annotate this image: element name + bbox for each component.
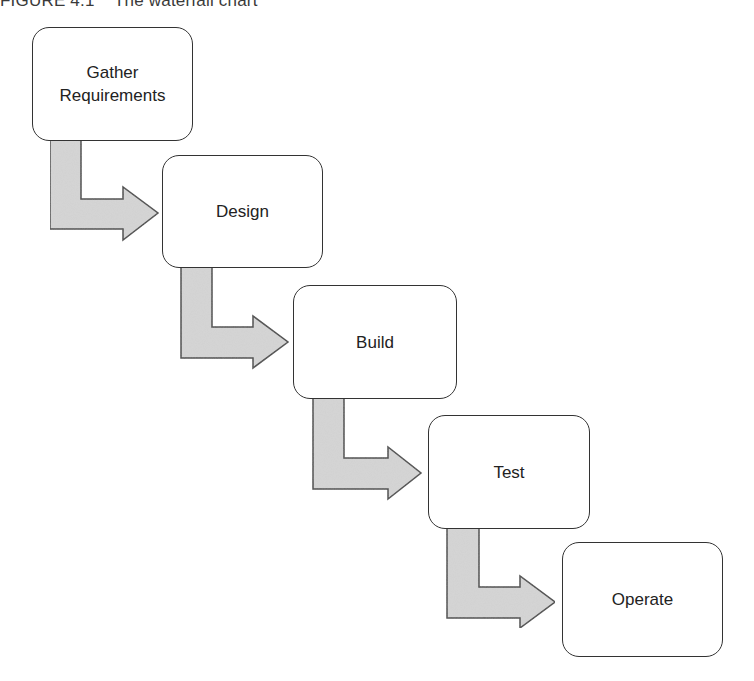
step-label: Operate (612, 588, 673, 611)
step-operate: Operate (562, 542, 723, 657)
step-label: Gather Requirements (53, 61, 173, 107)
arrow-2 (181, 267, 288, 368)
arrow-1 (50, 140, 158, 240)
step-build: Build (293, 285, 457, 399)
arrow-4 (447, 528, 555, 628)
step-design: Design (162, 155, 323, 268)
step-gather-requirements: Gather Requirements (32, 27, 193, 141)
step-label: Design (216, 200, 269, 223)
arrow-3 (313, 398, 421, 499)
step-test: Test (428, 415, 590, 529)
step-label: Test (493, 461, 524, 484)
step-label: Build (356, 331, 394, 354)
